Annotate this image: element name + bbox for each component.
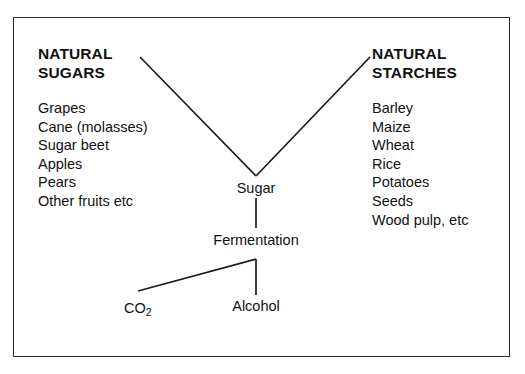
node-co2-subscript: 2 bbox=[146, 306, 152, 318]
list-item: Sugar beet bbox=[38, 136, 148, 155]
list-item: Grapes bbox=[38, 99, 148, 118]
list-item: Pears bbox=[38, 173, 148, 192]
natural-sugars-list: Grapes Cane (molasses) Sugar beet Apples… bbox=[38, 99, 148, 211]
natural-sugars-heading-line1: NATURAL bbox=[38, 44, 148, 63]
natural-starches-heading-line2: STARCHES bbox=[372, 63, 468, 82]
list-item: Maize bbox=[372, 118, 468, 137]
list-item: Wood pulp, etc bbox=[372, 211, 468, 230]
natural-sugars-heading: NATURAL SUGARS bbox=[38, 44, 148, 82]
node-fermentation: Fermentation bbox=[213, 232, 298, 249]
node-co2-base: CO bbox=[124, 300, 146, 316]
list-item: Potatoes bbox=[372, 173, 468, 192]
list-item: Barley bbox=[372, 99, 468, 118]
natural-sugars-heading-line2: SUGARS bbox=[38, 63, 148, 82]
list-item: Rice bbox=[372, 155, 468, 174]
natural-starches-list: Barley Maize Wheat Rice Potatoes Seeds W… bbox=[372, 99, 468, 229]
diagram-page: NATURAL SUGARS Grapes Cane (molasses) Su… bbox=[0, 0, 525, 374]
natural-starches-heading: NATURAL STARCHES bbox=[372, 44, 468, 82]
natural-starches-column: NATURAL STARCHES Barley Maize Wheat Rice… bbox=[372, 44, 468, 229]
list-item: Cane (molasses) bbox=[38, 118, 148, 137]
natural-sugars-column: NATURAL SUGARS Grapes Cane (molasses) Su… bbox=[38, 44, 148, 211]
list-item: Seeds bbox=[372, 192, 468, 211]
node-sugar: Sugar bbox=[237, 180, 276, 197]
node-co2: CO2 bbox=[124, 300, 152, 318]
list-item: Apples bbox=[38, 155, 148, 174]
list-item: Other fruits etc bbox=[38, 192, 148, 211]
node-alcohol: Alcohol bbox=[232, 298, 280, 315]
list-item: Wheat bbox=[372, 136, 468, 155]
natural-starches-heading-line1: NATURAL bbox=[372, 44, 468, 63]
